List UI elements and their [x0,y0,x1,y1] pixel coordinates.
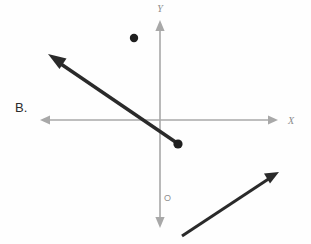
y-axis-top-arrowhead [155,20,164,31]
descending-vector-shaft [58,62,177,143]
vector-diagram-figure: Y X O B. [0,0,311,244]
y-axis-label: Y [157,3,164,14]
origin-label: O [164,193,171,203]
upper-point-marker [130,34,138,42]
y-axis-bottom-arrowhead [155,217,164,228]
x-axis-right-arrowhead [268,116,278,125]
choice-label: B. [15,100,27,115]
x-axis-label: X [287,115,295,126]
coordinate-plane-canvas: Y X O B. [0,0,311,244]
x-axis-left-arrowhead [40,116,50,125]
lower-point-marker [173,139,182,148]
ascending-vector-shaft [182,178,270,236]
